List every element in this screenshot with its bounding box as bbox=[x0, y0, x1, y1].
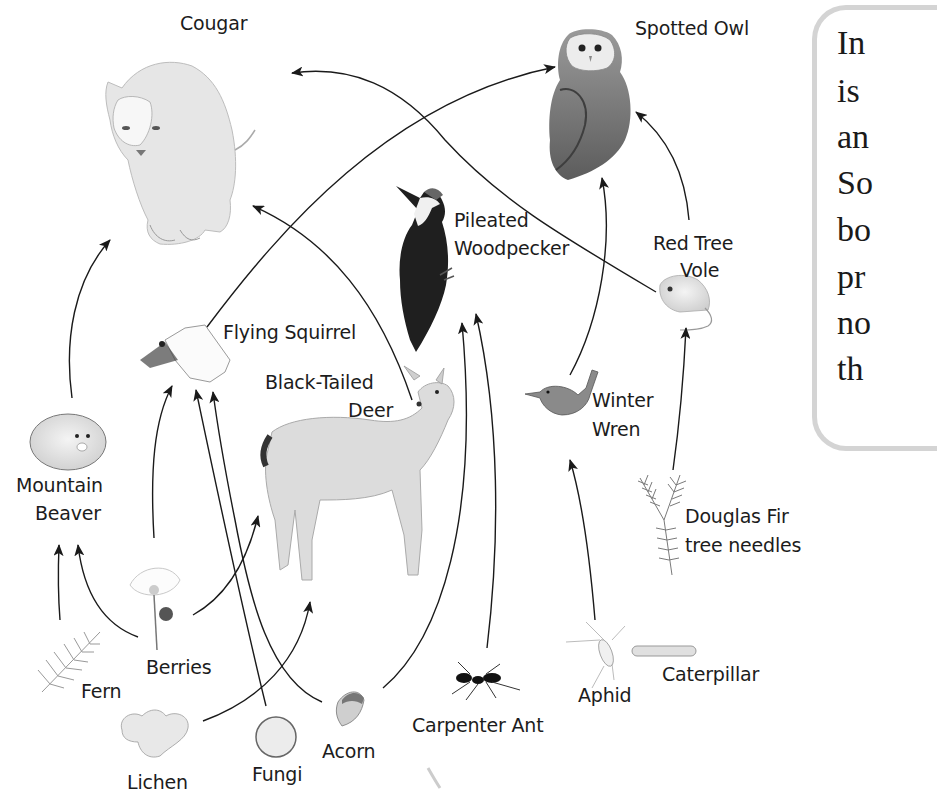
arrow-carpenter-ant-to-woodpecker bbox=[476, 314, 496, 648]
label-winter-wren-line1: Winter bbox=[592, 389, 653, 412]
label-carpenter-ant: Carpenter Ant bbox=[412, 714, 543, 737]
arrow-flying-squirrel-to-spotted-owl bbox=[207, 67, 555, 327]
side-text-line: bo bbox=[837, 211, 871, 249]
label-winter-wren-line2: Wren bbox=[592, 418, 640, 441]
side-text-line: In bbox=[837, 24, 865, 62]
label-acorn: Acorn bbox=[322, 740, 375, 763]
label-woodpecker-line2: Woodpecker bbox=[454, 237, 569, 260]
arrow-mountain-beaver-to-cougar bbox=[69, 240, 110, 398]
mountain-beaver-illustration bbox=[30, 414, 106, 470]
label-aphid: Aphid bbox=[578, 684, 631, 707]
carpenter-ant-illustration bbox=[452, 662, 520, 700]
arrow-acorn-to-woodpecker bbox=[383, 323, 466, 688]
label-spotted-owl: Spotted Owl bbox=[635, 17, 749, 40]
label-mountain-beaver-line2: Beaver bbox=[35, 502, 101, 525]
arrow-fern-to-mountain-beaver bbox=[58, 545, 60, 620]
flying-squirrel-illustration bbox=[140, 325, 230, 382]
red-tree-vole-illustration bbox=[660, 275, 712, 330]
label-mountain-beaver-line1: Mountain bbox=[16, 474, 103, 497]
label-red-tree-vole-line1: Red Tree bbox=[653, 232, 733, 255]
label-woodpecker-line1: Pileated bbox=[454, 209, 529, 232]
arrow-lichen-to-deer bbox=[203, 602, 310, 721]
arrow-aphid-to-winter-wren bbox=[570, 460, 595, 620]
label-fern: Fern bbox=[81, 680, 121, 703]
arrow-douglas-fir-to-red-tree-vole bbox=[673, 328, 686, 470]
label-red-tree-vole-line2: Vole bbox=[680, 259, 719, 282]
side-text-line: th bbox=[837, 350, 863, 388]
acorn-illustration bbox=[336, 692, 364, 726]
arrow-berries-to-mountain-beaver bbox=[78, 545, 138, 637]
side-text-box: In is an So bo pr no th bbox=[812, 5, 937, 451]
label-lichen: Lichen bbox=[127, 771, 188, 791]
label-fungi: Fungi bbox=[252, 763, 302, 786]
aphid-illustration bbox=[566, 622, 625, 688]
woodpecker-illustration bbox=[396, 186, 454, 352]
label-douglas-fir-line1: Douglas Fir bbox=[685, 505, 789, 528]
label-deer-line2: Deer bbox=[348, 399, 393, 422]
arrow-red-tree-vole-to-spotted-owl bbox=[636, 112, 689, 220]
side-text-line: pr bbox=[837, 258, 865, 296]
label-caterpillar: Caterpillar bbox=[662, 663, 759, 686]
label-deer-line1: Black-Tailed bbox=[265, 371, 374, 394]
leaf-fragment-illustration bbox=[428, 768, 440, 788]
spotted-owl-illustration bbox=[549, 29, 630, 180]
berries-illustration bbox=[130, 568, 180, 650]
winter-wren-illustration bbox=[525, 370, 598, 415]
side-text-line: is bbox=[837, 72, 860, 110]
side-text-line: no bbox=[837, 304, 871, 342]
douglas-fir-illustration bbox=[638, 475, 686, 575]
caterpillar-illustration bbox=[632, 646, 696, 656]
arrow-berries-to-flying-squirrel bbox=[153, 386, 172, 538]
fungi-illustration bbox=[256, 717, 296, 757]
label-flying-squirrel: Flying Squirrel bbox=[223, 321, 356, 344]
side-text-line: an bbox=[837, 118, 869, 156]
side-text-line: So bbox=[837, 164, 873, 202]
label-cougar: Cougar bbox=[180, 12, 247, 35]
label-douglas-fir-line2: tree needles bbox=[685, 534, 801, 557]
cougar-illustration bbox=[106, 62, 255, 244]
lichen-illustration bbox=[121, 710, 188, 757]
label-berries: Berries bbox=[146, 656, 211, 679]
arrow-winter-wren-to-spotted-owl bbox=[570, 178, 606, 375]
